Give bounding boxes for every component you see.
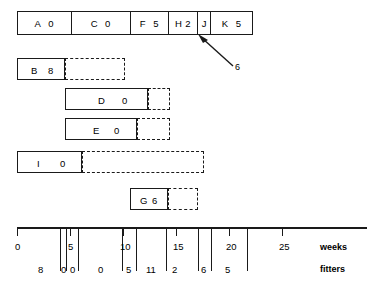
resource-value-4: 0 (98, 265, 103, 275)
summary-segment-A-value: 0 (48, 18, 54, 29)
summary-segment-K: K 5 (211, 12, 252, 34)
resource-divider-6 (166, 227, 167, 271)
summary-segment-A-code: A (34, 18, 41, 29)
axis-tick-20 (229, 227, 230, 236)
summary-bar: A 0 C 0 F 5 H 2 J K 5 (17, 11, 253, 35)
resource-divider-9 (247, 227, 248, 271)
axis-tick-25 (282, 227, 283, 236)
axis-label-15: 15 (173, 242, 184, 252)
summary-segment-C: C 0 (72, 12, 131, 34)
axis-tick-5 (70, 227, 71, 236)
activity-bar-G-code: G (140, 196, 148, 206)
activity-bar-G-duration: G 6 (130, 188, 168, 210)
annotation-arrow-icon (190, 33, 270, 75)
resource-value-2: 0 (61, 265, 66, 275)
axis-label-25: 25 (279, 242, 290, 252)
resource-value-8: 6 (201, 265, 206, 275)
summary-segment-K-value: 5 (236, 18, 242, 29)
activity-bar-I-value: 0 (60, 159, 66, 169)
activity-bar-B-float (65, 58, 125, 80)
activity-bar-E-float (137, 118, 170, 140)
activity-bar-D-value: 0 (122, 96, 128, 106)
axis-unit-weeks: weeks (320, 243, 347, 252)
resource-value-3: 0 (70, 265, 75, 275)
activity-bar-E-value: 0 (114, 126, 120, 136)
activity-bar-I-float (82, 151, 204, 173)
activity-bar-E-duration: E 0 (65, 118, 137, 140)
axis-label-20: 20 (226, 242, 237, 252)
axis-tick-15 (176, 227, 177, 236)
resource-divider-7 (198, 227, 199, 271)
summary-segment-H-code: H (175, 18, 182, 29)
resource-value-1: 8 (38, 265, 43, 275)
resource-value-6: 11 (146, 265, 156, 275)
annotation-label: 6 (235, 63, 240, 72)
summary-segment-J: J (198, 12, 211, 34)
resource-divider-3 (78, 227, 79, 271)
activity-bar-B: B 8 (17, 58, 125, 80)
activity-bar-B-value: 8 (48, 66, 54, 76)
activity-bar-G-float (168, 188, 198, 210)
activity-bar-D: D 0 (65, 88, 170, 110)
resource-divider-5 (136, 227, 137, 271)
activity-bar-E-code: E (93, 126, 100, 136)
activity-bar-B-code: B (31, 66, 38, 76)
activity-bar-I: I 0 (17, 151, 204, 173)
activity-bar-I-code: I (37, 159, 40, 169)
activity-bar-G: G 6 (130, 188, 198, 210)
activity-bar-D-code: D (98, 96, 105, 106)
resource-leveling-gantt-chart: A 0 C 0 F 5 H 2 J K 5 6 B (0, 0, 384, 282)
activity-bar-D-duration: D 0 (65, 88, 148, 110)
axis-label-5: 5 (68, 242, 73, 252)
summary-segment-C-value: 0 (105, 18, 111, 29)
summary-segment-F-value: 5 (153, 18, 159, 29)
resource-value-9: 5 (225, 265, 230, 275)
activity-bar-G-value: 6 (152, 196, 158, 206)
summary-segment-H: H 2 (169, 12, 199, 34)
summary-segment-J-code: J (202, 18, 207, 29)
axis-tick-0 (17, 227, 18, 236)
axis-label-0: 0 (15, 242, 20, 252)
summary-segment-K-code: K (222, 18, 229, 29)
activity-bar-D-float (148, 88, 170, 110)
activity-bar-B-duration: B 8 (17, 58, 65, 80)
summary-segment-H-value: 2 (185, 18, 191, 29)
resource-value-7: 2 (172, 265, 177, 275)
axis-label-10: 10 (120, 242, 131, 252)
resource-divider-8 (211, 227, 212, 271)
activity-bar-I-duration: I 0 (17, 151, 82, 173)
resource-value-5: 5 (126, 265, 131, 275)
summary-segment-F-code: F (140, 18, 146, 29)
summary-segment-A: A 0 (18, 12, 72, 34)
activity-bar-E: E 0 (65, 118, 170, 140)
summary-segment-F: F 5 (131, 12, 169, 34)
axis-unit-fitters: fitters (320, 265, 345, 274)
summary-segment-C-code: C (91, 18, 98, 29)
